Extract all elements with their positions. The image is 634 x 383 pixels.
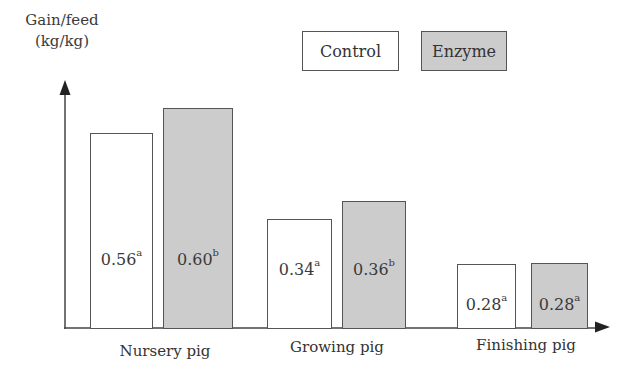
bar-label-finishing-control: 0.28a (458, 295, 515, 314)
bar-growing-enzyme: 0.36b (342, 201, 406, 329)
bar-finishing-enzyme: 0.28a (531, 263, 588, 329)
bar-label-nursery-enzyme: 0.60b (164, 250, 232, 269)
bar-label-nursery-control: 0.56a (91, 250, 152, 269)
category-label-nursery: Nursery pig (95, 342, 235, 360)
bar-label-finishing-enzyme: 0.28a (532, 295, 587, 314)
bar-label-growing-control: 0.34a (268, 260, 331, 279)
bar-nursery-control: 0.56a (90, 133, 153, 329)
x-axis-arrow-icon (595, 322, 610, 333)
bar-nursery-enzyme: 0.60b (163, 108, 233, 329)
y-axis-arrow-icon (60, 80, 71, 95)
category-label-growing: Growing pig (266, 338, 408, 356)
bar-finishing-control: 0.28a (457, 264, 516, 329)
category-label-finishing: Finishing pig (458, 336, 594, 354)
bar-label-growing-enzyme: 0.36b (343, 260, 405, 279)
bar-growing-control: 0.34a (267, 219, 332, 329)
